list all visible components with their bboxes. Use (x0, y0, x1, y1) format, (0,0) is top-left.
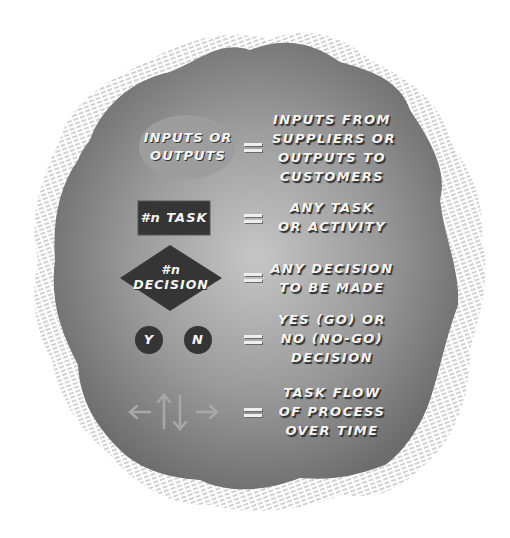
legend-diagram: INPUTS OR OUTPUTS INPUTS FROM SUPPLIERS … (0, 0, 510, 538)
meaning-task-flow: TASK FLOW OF PROCESS OVER TIME (270, 383, 394, 440)
meaning-decision: ANY DECISION TO BE MADE (265, 259, 399, 297)
decision-label: #n DECISION (120, 262, 222, 292)
equals-sign (244, 408, 262, 417)
equals-sign (244, 214, 262, 223)
meaning-yes-no: YES (GO) OR NO (NO-GO) DECISION (270, 310, 394, 367)
no-label: N (184, 331, 212, 349)
task-label: #n TASK (138, 209, 210, 227)
equals-sign (244, 143, 262, 152)
meaning-task: ANY TASK OR ACTIVITY (272, 198, 392, 236)
ellipse-label: INPUTS OR OUTPUTS (142, 129, 234, 165)
equals-sign (244, 335, 262, 344)
blob-background (0, 0, 510, 538)
equals-sign (244, 273, 262, 282)
yes-label: Y (135, 331, 163, 349)
meaning-inputs-outputs: INPUTS FROM SUPPLIERS OR OUTPUTS TO CUST… (272, 110, 392, 186)
